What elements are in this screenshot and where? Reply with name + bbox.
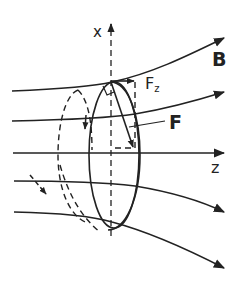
diagram-canvas: x B Fz F z — [0, 0, 238, 282]
field-line-2 — [12, 92, 224, 121]
particle-ring — [89, 82, 140, 230]
field-lines — [12, 38, 224, 268]
diagram-svg — [0, 0, 238, 282]
force-label-f: F — [169, 113, 182, 132]
force-component-label: Fz — [145, 76, 159, 94]
fz-main: F — [145, 74, 154, 93]
fz-sub: z — [154, 83, 159, 94]
field-line-4 — [14, 181, 224, 212]
x-axis-label: x — [93, 25, 102, 40]
field-line-5 — [14, 212, 224, 268]
z-axis-label: z — [211, 160, 219, 176]
field-label-b: B — [212, 50, 226, 69]
